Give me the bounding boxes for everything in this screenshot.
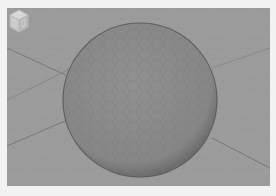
sphere-object[interactable] [63,23,217,177]
view-cube-icon[interactable] [7,8,31,34]
3d-viewport[interactable] [7,8,270,186]
scene [7,8,270,186]
